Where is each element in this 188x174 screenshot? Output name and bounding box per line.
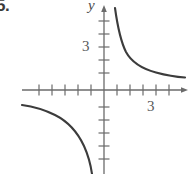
curve-branch-quadrant-one <box>115 8 185 78</box>
y-axis-arrowhead <box>101 5 107 12</box>
x-axis-arrowhead <box>181 87 188 93</box>
coordinate-plane-svg <box>0 0 188 174</box>
y-axis-tick-label-3: 3 <box>82 39 90 54</box>
graph-figure: 5. <box>0 0 188 174</box>
y-axis-label: y <box>88 0 95 13</box>
curve-branch-quadrant-three <box>22 105 92 174</box>
x-axis-tick-label-3: 3 <box>147 99 155 114</box>
